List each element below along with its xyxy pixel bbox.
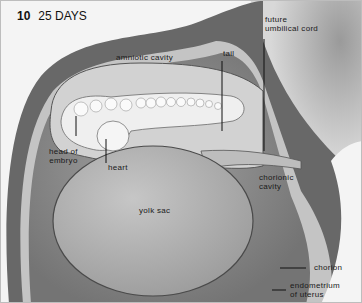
label-amniotic-cavity: amniotic cavity [116,53,173,62]
figure-title: 1025 DAYS [17,9,87,23]
label-future-umbilical-cord: future umbilical cord [265,15,318,33]
label-future-umbilical-cord-line2: umbilical cord [265,24,318,33]
label-chorionic-cavity: chorionic cavity [259,173,294,191]
label-yolk-sac: yolk sac [139,206,170,215]
label-endometrium-line1: endometrium [290,281,340,290]
yolk-sac [53,146,253,296]
label-head-of-embryo: head of embryo [49,147,78,165]
heart-shape [97,121,129,151]
label-chorion: chorion [314,263,342,272]
label-tail: tail [223,49,234,58]
label-chorionic-cavity-line1: chorionic [259,173,294,182]
label-chorionic-cavity-line2: cavity [259,182,294,191]
label-endometrium-line2: of uterus [290,290,340,299]
label-head-of-embryo-line2: embryo [49,156,78,165]
label-heart: heart [108,163,128,172]
figure-title-text: 25 DAYS [38,9,86,23]
label-head-of-embryo-line1: head of [49,147,78,156]
figure-number: 10 [17,9,30,23]
label-endometrium: endometrium of uterus [290,281,340,299]
label-future-umbilical-cord-line1: future [265,15,318,24]
diagram-canvas: 1025 DAYS amniotic cavity tail future um… [0,0,362,303]
